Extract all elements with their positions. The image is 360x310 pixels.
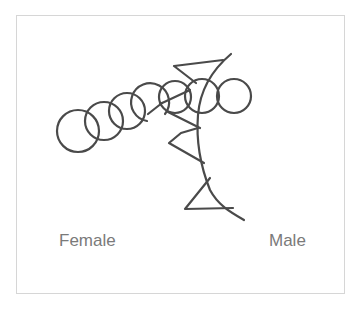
- female-symbol-circles-icon: [57, 79, 251, 152]
- circle-1: [57, 110, 99, 152]
- male-label: Male: [269, 232, 306, 249]
- connector-stroke: [168, 112, 200, 128]
- drawing-canvas: [0, 0, 360, 310]
- female-label: Female: [59, 232, 116, 249]
- circle-3: [109, 93, 145, 129]
- circle-7: [217, 79, 251, 113]
- bottom-triangle: [185, 178, 233, 209]
- circle-2: [85, 102, 123, 140]
- knot-stroke: [148, 103, 162, 114]
